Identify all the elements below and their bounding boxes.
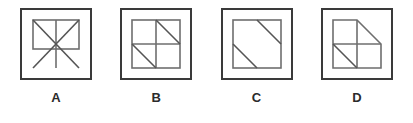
figure-frame-c — [221, 8, 293, 80]
figure-frame-b — [120, 8, 192, 80]
figure-b-graphic — [124, 12, 188, 76]
diagonal-bottom-left-quadrant — [132, 44, 156, 68]
diagonal-bottom-left-quadrant — [333, 44, 357, 68]
diagonal-lower-left — [233, 44, 257, 68]
answer-option-b[interactable]: B — [114, 8, 198, 104]
answer-options-row: A B C — [0, 0, 413, 123]
figure-a-graphic — [24, 12, 88, 76]
diagonal-top-right-quadrant — [156, 20, 180, 44]
answer-option-d[interactable]: D — [315, 8, 399, 104]
option-label-b: B — [151, 91, 161, 104]
figure-d-graphic — [325, 12, 389, 76]
option-label-a: A — [51, 91, 61, 104]
inner-square — [233, 20, 281, 68]
answer-option-a[interactable]: A — [14, 8, 98, 104]
answer-option-c[interactable]: C — [215, 8, 299, 104]
option-label-c: C — [252, 91, 262, 104]
option-label-d: D — [352, 91, 362, 104]
figure-c-graphic — [225, 12, 289, 76]
diagonal-upper-right — [257, 20, 281, 44]
figure-frame-a — [20, 8, 92, 80]
figure-frame-d — [321, 8, 393, 80]
